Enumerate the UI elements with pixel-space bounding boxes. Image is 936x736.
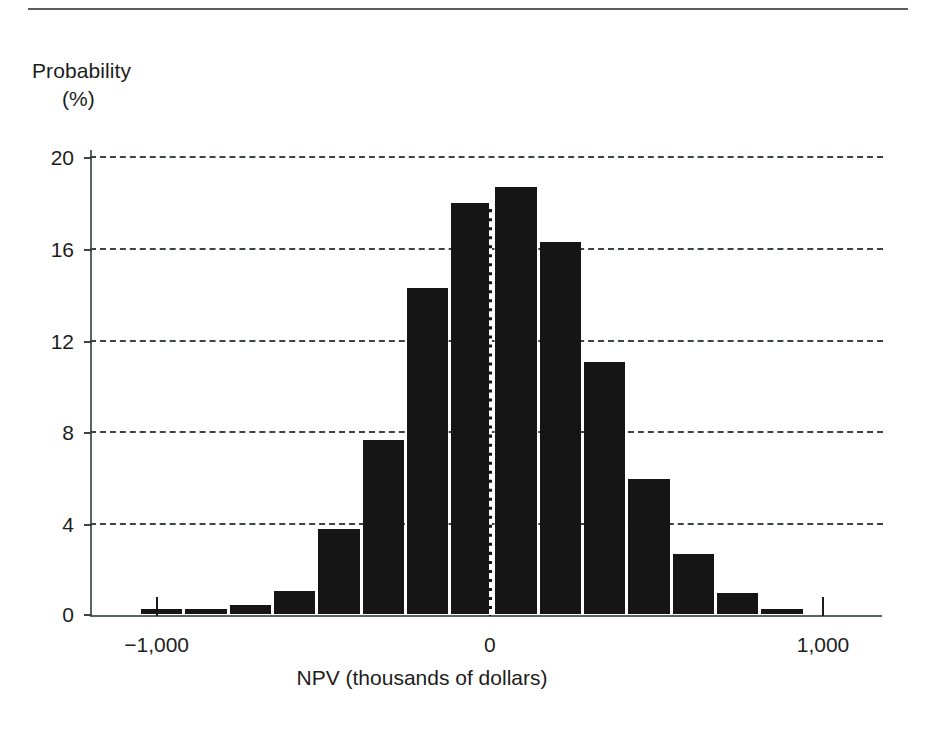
x-tick-label--1000: −1,000 xyxy=(124,633,189,657)
y-tick-mark-12 xyxy=(84,341,92,343)
histogram-bar xyxy=(761,609,802,614)
y-axis-unit-label: (%) xyxy=(62,86,95,112)
y-tick-mark-8 xyxy=(84,432,92,434)
histogram-bar xyxy=(407,288,448,614)
y-tick-mark-16 xyxy=(84,249,92,251)
histogram-bar xyxy=(584,362,625,614)
histogram-bar xyxy=(141,609,182,614)
histogram-bar xyxy=(274,591,315,614)
top-horizontal-rule xyxy=(28,8,908,10)
x-axis-line xyxy=(90,615,882,617)
y-tick-mark-20 xyxy=(84,157,92,159)
x-tick-mark-1000 xyxy=(822,597,824,616)
y-tick-label-20: 20 xyxy=(51,146,74,170)
y-tick-label-16: 16 xyxy=(51,238,74,262)
histogram-bar xyxy=(230,605,271,614)
x-axis-title: NPV (thousands of dollars) xyxy=(0,666,936,690)
zero-reference-line xyxy=(489,149,492,615)
x-tick-label-0: 0 xyxy=(484,633,496,657)
histogram-figure: Probability (%) 048121620 −1,00001,000 N… xyxy=(0,0,936,736)
histogram-bar xyxy=(717,593,758,614)
plot-area: 048121620 −1,00001,000 xyxy=(90,150,883,616)
y-axis-line xyxy=(90,150,92,617)
histogram-bar xyxy=(495,187,536,614)
y-axis-title: Probability xyxy=(32,58,131,84)
y-tick-mark-0 xyxy=(84,614,92,616)
y-tick-label-0: 0 xyxy=(62,603,74,627)
x-axis-title-text: NPV (thousands of dollars) xyxy=(297,666,548,689)
x-tick-label-1000: 1,000 xyxy=(797,633,850,657)
gridline-y-20: 20 xyxy=(90,156,883,158)
histogram-bar xyxy=(540,242,581,614)
histogram-bar xyxy=(451,203,492,614)
histogram-bar xyxy=(628,479,669,614)
y-tick-label-4: 4 xyxy=(62,513,74,537)
y-tick-label-12: 12 xyxy=(51,330,74,354)
histogram-bar xyxy=(318,529,359,614)
y-tick-mark-4 xyxy=(84,524,92,526)
histogram-bar xyxy=(363,440,404,614)
histogram-bar xyxy=(185,609,226,614)
y-tick-label-8: 8 xyxy=(62,421,74,445)
histogram-bar xyxy=(673,554,714,614)
